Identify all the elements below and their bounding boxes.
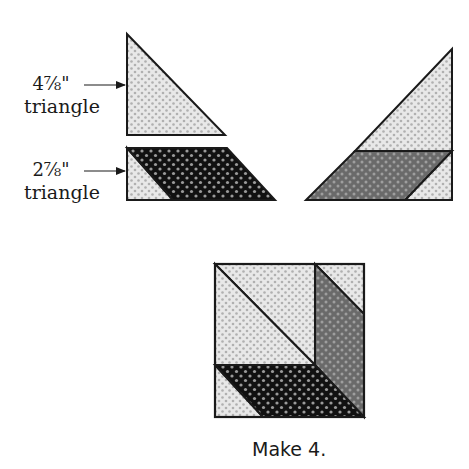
large-triangle-size: 4⅞" [22, 73, 102, 95]
large-triangle-word: triangle [22, 95, 102, 117]
make-count-caption: Make 4. [252, 438, 326, 460]
diagram-svg [0, 0, 469, 469]
large-triangle-label: 4⅞" triangle [22, 73, 102, 117]
finished-block [215, 264, 364, 417]
small-triangle-size: 2⅞" [22, 159, 102, 181]
assembled-top-triangle [355, 49, 452, 151]
small-triangle-word: triangle [22, 181, 102, 203]
small-triangle-label: 2⅞" triangle [22, 159, 102, 203]
quilt-diagram: 4⅞" triangle 2⅞" triangle Make 4. [0, 0, 469, 469]
large-light-triangle [127, 34, 225, 135]
